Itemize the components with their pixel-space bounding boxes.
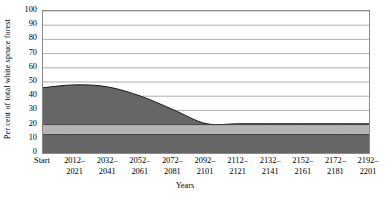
- x-tick-label-line1: 2112–: [227, 156, 248, 165]
- y-tick-label: 10: [29, 134, 37, 142]
- x-tick-label-line2: 2121: [227, 167, 248, 178]
- x-tick-label: 2172–2181: [325, 156, 346, 177]
- y-tick-label: 70: [29, 48, 37, 56]
- x-tick-label-line1: 2152–: [292, 156, 313, 165]
- x-tick-label-line1: 2092–: [195, 156, 216, 165]
- y-tick-label: 80: [29, 34, 37, 42]
- y-axis-title-text: Per cent of total white spruce forest: [4, 19, 12, 139]
- x-tick-label-line1: 2072–: [162, 156, 183, 165]
- area-band-light-band: [43, 125, 369, 135]
- x-tick-label-line2: 2061: [129, 167, 150, 178]
- x-tick-label-line1: 2132–: [260, 156, 281, 165]
- x-tick-label-line2: 2141: [260, 167, 281, 178]
- x-axis-title: Years: [0, 182, 388, 196]
- y-axis-tick-labels: 0102030405060708090100: [16, 0, 40, 158]
- y-tick-label: 60: [29, 63, 37, 71]
- y-tick-label: 0: [33, 148, 37, 156]
- x-tick-label-line1: Start: [34, 156, 50, 165]
- y-tick-label: 40: [29, 91, 37, 99]
- x-tick-label-line1: 2192–: [358, 156, 379, 165]
- plot-area: [42, 10, 370, 154]
- y-tick-label: 100: [24, 6, 37, 14]
- x-tick-label: 2132–2141: [260, 156, 281, 177]
- x-tick-label-line2: 2101: [195, 167, 216, 178]
- x-tick-label-line1: 2032–: [97, 156, 118, 165]
- x-tick-label: 2192–2201: [358, 156, 379, 177]
- x-tick-label-line2: 2161: [292, 167, 313, 178]
- area-band-upper-dark-band: [43, 85, 369, 125]
- chart-container: Per cent of total white spruce forest 01…: [0, 0, 388, 204]
- y-tick-label: 20: [29, 119, 37, 127]
- x-tick-label-line2: 2041: [97, 167, 118, 178]
- x-tick-label-line2: 2181: [325, 167, 346, 178]
- x-tick-label: 2052–2061: [129, 156, 150, 177]
- x-tick-label-line1: 2012–: [64, 156, 85, 165]
- x-axis-title-text: Years: [176, 181, 195, 190]
- y-tick-label: 30: [29, 105, 37, 113]
- x-tick-label: 2092–2101: [195, 156, 216, 177]
- x-tick-label: 2112–2121: [227, 156, 248, 177]
- area-band-lower-dark-band: [43, 135, 369, 153]
- x-tick-label-line1: 2052–: [129, 156, 150, 165]
- x-tick-label: 2072–2081: [162, 156, 183, 177]
- y-axis-title: Per cent of total white spruce forest: [0, 0, 16, 158]
- x-tick-label-line2: 2201: [358, 167, 379, 178]
- x-tick-label: Start: [34, 156, 50, 167]
- x-tick-label: 2152–2161: [292, 156, 313, 177]
- x-tick-label: 2032–2041: [97, 156, 118, 177]
- x-tick-label-line1: 2172–: [325, 156, 346, 165]
- x-tick-label-line2: 2081: [162, 167, 183, 178]
- area-chart-svg: [43, 11, 369, 153]
- x-tick-label-line2: 2021: [64, 167, 85, 178]
- y-tick-label: 90: [29, 20, 37, 28]
- y-tick-label: 50: [29, 77, 37, 85]
- x-tick-label: 2012–2021: [64, 156, 85, 177]
